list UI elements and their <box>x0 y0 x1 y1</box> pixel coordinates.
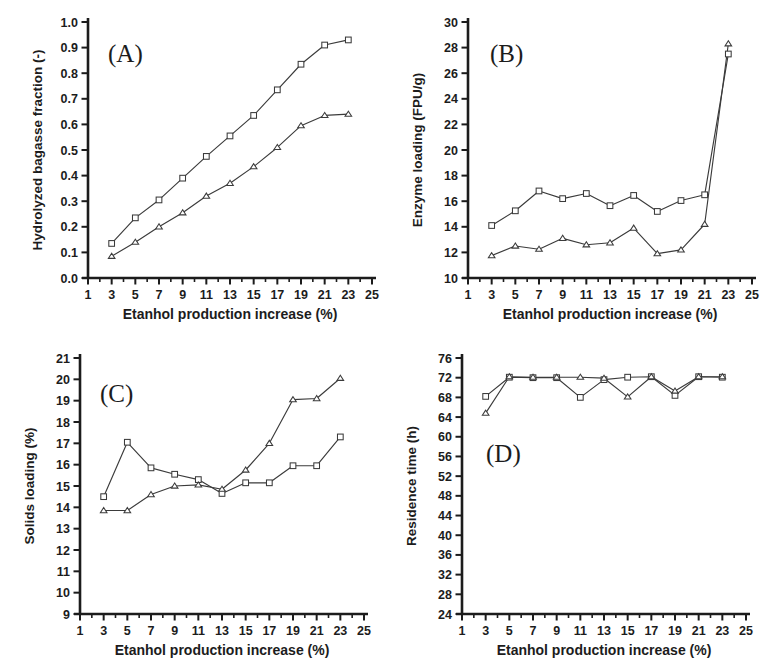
y-tick-label: 20 <box>444 144 458 158</box>
panel-d: 1357911131517192123252428323640444852566… <box>390 330 780 661</box>
data-point-square <box>314 463 320 469</box>
x-tick-label: 7 <box>536 288 543 302</box>
y-tick-label: 11 <box>57 565 70 579</box>
data-point-square <box>266 480 272 486</box>
y-tick-label: 24 <box>444 92 458 106</box>
data-point-square <box>725 51 731 57</box>
y-tick-label: 76 <box>438 352 452 366</box>
x-tick-label: 25 <box>739 624 753 638</box>
y-tick-label: 0.3 <box>61 195 78 209</box>
x-tick-label: 23 <box>715 624 729 638</box>
x-tick-label: 9 <box>559 288 566 302</box>
x-tick-label: 11 <box>580 288 593 302</box>
x-axis-title: Etanhol production increase (%) <box>115 642 330 658</box>
x-tick-label: 19 <box>294 288 308 302</box>
x-tick-label: 17 <box>650 288 664 302</box>
series-line-square-series <box>112 40 349 244</box>
y-axis-title: Enzyme loading (FPU/g) <box>410 73 425 228</box>
y-tick-label: 24 <box>438 608 452 622</box>
x-tick-label: 7 <box>148 624 155 638</box>
x-tick-label: 9 <box>171 624 178 638</box>
data-point-square <box>654 209 660 215</box>
x-axis-title: Etanhol production increase (%) <box>503 306 718 322</box>
x-tick-label: 19 <box>674 288 688 302</box>
data-point-square <box>132 215 138 221</box>
panel-a-canvas: 1357911131517192123250.00.10.20.30.40.50… <box>0 0 390 330</box>
data-point-square <box>512 208 518 214</box>
y-tick-label: 17 <box>56 437 70 451</box>
y-tick-label: 48 <box>438 489 452 503</box>
x-tick-label: 1 <box>85 288 92 302</box>
x-tick-label: 13 <box>223 288 237 302</box>
y-tick-label: 0.8 <box>61 67 78 81</box>
x-tick-label: 9 <box>179 288 186 302</box>
x-tick-label: 1 <box>77 624 84 638</box>
y-tick-label: 28 <box>444 41 458 55</box>
data-point-triangle <box>607 240 614 245</box>
x-tick-label: 19 <box>668 624 682 638</box>
y-tick-label: 0.9 <box>61 41 78 55</box>
x-tick-label: 15 <box>621 624 635 638</box>
x-tick-label: 11 <box>200 288 213 302</box>
y-tick-label: 12 <box>444 246 458 260</box>
y-tick-label: 44 <box>438 509 452 523</box>
y-tick-label: 16 <box>56 458 70 472</box>
x-tick-label: 13 <box>603 288 617 302</box>
data-point-square <box>180 175 186 181</box>
panel-b-canvas: 1357911131517192123251012141618202224262… <box>390 0 780 330</box>
data-point-square <box>290 463 296 469</box>
x-tick-label: 5 <box>132 288 139 302</box>
x-tick-label: 15 <box>627 288 641 302</box>
data-point-triangle <box>559 235 566 240</box>
panel-tag: (C) <box>100 380 133 408</box>
x-axis-title: Etanhol production increase (%) <box>123 306 338 322</box>
y-tick-label: 52 <box>438 470 452 484</box>
data-point-square <box>678 198 684 204</box>
x-tick-label: 5 <box>506 624 513 638</box>
panel-a: 1357911131517192123250.00.10.20.30.40.50… <box>0 0 390 330</box>
data-point-square <box>274 87 280 93</box>
data-point-square <box>631 193 637 199</box>
data-point-square <box>109 241 115 247</box>
data-point-triangle <box>203 193 210 198</box>
y-tick-label: 40 <box>438 529 452 543</box>
panel-c: 1357911131517192123259101112131415161718… <box>0 330 390 661</box>
y-tick-label: 0.0 <box>61 272 78 286</box>
data-point-square <box>227 133 233 139</box>
x-tick-label: 23 <box>333 624 347 638</box>
data-point-square <box>345 37 351 43</box>
x-tick-label: 13 <box>597 624 611 638</box>
x-tick-label: 5 <box>124 624 131 638</box>
series-line-square-series <box>492 54 729 226</box>
data-point-square <box>148 465 154 471</box>
x-tick-label: 21 <box>698 288 712 302</box>
y-tick-label: 14 <box>444 220 458 234</box>
x-axis-title: Etanhol production increase (%) <box>497 642 712 658</box>
y-tick-label: 0.7 <box>61 92 78 106</box>
x-tick-label: 3 <box>482 624 489 638</box>
series-line-triangle-series <box>492 44 729 256</box>
x-tick-label: 11 <box>192 624 205 638</box>
x-tick-label: 25 <box>357 624 371 638</box>
data-point-triangle <box>701 221 708 226</box>
x-tick-label: 21 <box>692 624 706 638</box>
x-tick-label: 11 <box>574 624 587 638</box>
y-tick-label: 28 <box>438 588 452 602</box>
data-point-square <box>101 494 107 500</box>
data-point-square <box>298 61 304 67</box>
x-tick-label: 23 <box>341 288 355 302</box>
x-tick-label: 23 <box>721 288 735 302</box>
data-point-square <box>172 471 178 477</box>
y-tick-label: 15 <box>56 480 70 494</box>
data-point-square <box>251 113 257 119</box>
panel-b: 1357911131517192123251012141618202224262… <box>390 0 780 330</box>
data-point-triangle <box>108 253 115 258</box>
y-tick-label: 10 <box>444 272 458 286</box>
x-tick-label: 21 <box>318 288 332 302</box>
x-tick-label: 19 <box>286 624 300 638</box>
y-tick-label: 1.0 <box>61 16 78 30</box>
y-tick-label: 64 <box>438 411 452 425</box>
y-tick-label: 32 <box>438 568 452 582</box>
data-point-triangle <box>512 243 519 248</box>
data-point-square <box>583 191 589 197</box>
